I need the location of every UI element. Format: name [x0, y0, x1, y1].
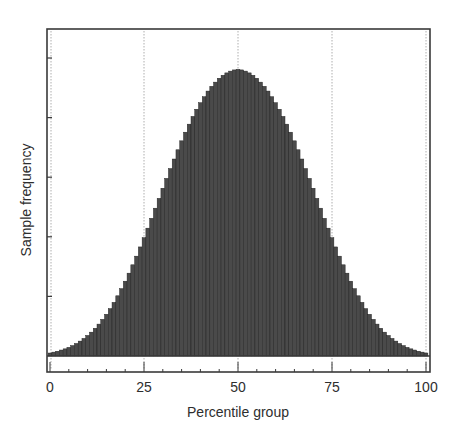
histogram-bar [315, 198, 319, 356]
x-tick-label: 50 [230, 379, 246, 395]
histogram-bar [78, 341, 82, 356]
histogram-bar [229, 71, 233, 356]
histogram-bar [379, 328, 383, 356]
histogram-bar [247, 73, 251, 356]
histogram-bar [221, 75, 225, 356]
histogram-bar [255, 78, 259, 356]
histogram-bar [101, 319, 105, 356]
histogram-bar [120, 289, 124, 356]
histogram-bar [232, 70, 236, 356]
histogram-bar [360, 302, 364, 356]
histogram-bar [262, 86, 266, 356]
histogram-bar [296, 150, 300, 356]
histogram-bar [105, 314, 109, 356]
histogram-bar [168, 169, 172, 356]
histogram-bar [116, 296, 120, 356]
histogram-bar [187, 124, 191, 356]
histogram-bar [304, 169, 308, 356]
histogram-bar [371, 319, 375, 356]
histogram-bar [225, 73, 229, 356]
histogram-bar [394, 341, 398, 356]
histogram-bar [244, 71, 248, 356]
histogram-bar [289, 132, 293, 356]
histogram-bar [398, 343, 402, 356]
histogram-bar [308, 178, 312, 356]
histogram-bar [334, 247, 338, 356]
histogram-bar [285, 124, 289, 356]
histogram-bar [97, 324, 101, 356]
histogram-bar [153, 208, 157, 356]
histogram-bar [240, 70, 244, 356]
histogram-bar [356, 296, 360, 356]
histogram-bar [157, 198, 161, 356]
histogram-bar [383, 332, 387, 356]
histogram-bar [138, 247, 142, 356]
histogram-bar [281, 116, 285, 356]
x-tick-label: 100 [414, 379, 438, 395]
histogram-bar [364, 309, 368, 356]
histogram-bar [180, 141, 184, 356]
histogram-bar [89, 332, 93, 356]
histogram-bar [59, 350, 63, 356]
histogram-bar [86, 335, 90, 356]
histogram-bar [165, 178, 169, 356]
x-tick-label: 25 [136, 379, 152, 395]
histogram-bar [202, 97, 206, 356]
histogram-bar [74, 343, 78, 356]
histogram-bar [142, 238, 146, 356]
histogram-bar [323, 218, 327, 356]
histogram-bar [195, 109, 199, 356]
histogram-bar [191, 116, 195, 356]
histogram-bar [123, 281, 127, 356]
histogram-bar [82, 338, 86, 356]
histogram-bar [277, 109, 281, 356]
histogram-bar [150, 218, 154, 356]
histogram-bar [93, 328, 97, 356]
histogram-bar [217, 78, 221, 356]
histogram-bar [270, 97, 274, 356]
histogram-bar [206, 91, 210, 356]
histogram-bar [183, 132, 187, 356]
histogram-bar [199, 103, 203, 356]
histogram-bar [135, 256, 139, 356]
histogram-bar [127, 273, 131, 356]
histogram-bar [172, 159, 176, 356]
x-axis-tick-labels: 0255075100 [46, 379, 438, 395]
histogram-bar [345, 273, 349, 356]
histogram-bar [63, 349, 67, 356]
histogram-bar [402, 346, 406, 356]
histogram-bar [210, 86, 214, 356]
x-axis-ticks [50, 362, 426, 372]
histogram-bar [311, 188, 315, 356]
histogram-bar [112, 302, 116, 356]
histogram-bar [413, 350, 417, 356]
histogram-bar [71, 346, 75, 356]
histogram-bar [108, 309, 112, 356]
histogram-bar [405, 347, 409, 356]
histogram-bar [375, 324, 379, 356]
histogram-bar [67, 347, 71, 356]
histogram-bar [341, 265, 345, 356]
histogram-bar [176, 150, 180, 356]
histogram-bar [131, 265, 135, 356]
x-tick-label: 75 [324, 379, 340, 395]
histogram-bar [409, 349, 413, 356]
histogram-bars [48, 69, 428, 356]
histogram-bar [236, 69, 240, 356]
chart: 0255075100 Percentile group Sample frequ… [0, 0, 457, 443]
histogram-bar [326, 228, 330, 356]
histogram-bar [353, 289, 357, 356]
x-axis-title: Percentile group [187, 404, 289, 420]
histogram-bar [266, 91, 270, 356]
histogram-bar [319, 208, 323, 356]
histogram-bar [300, 159, 304, 356]
histogram-bar [349, 281, 353, 356]
histogram-bar [161, 188, 165, 356]
histogram-bar [390, 338, 394, 356]
y-axis-title: Sample frequency [18, 144, 34, 257]
x-tick-label: 0 [46, 379, 54, 395]
histogram-bar [368, 314, 372, 356]
histogram-bar [293, 141, 297, 356]
histogram-bar [330, 238, 334, 356]
histogram-bar [274, 103, 278, 356]
